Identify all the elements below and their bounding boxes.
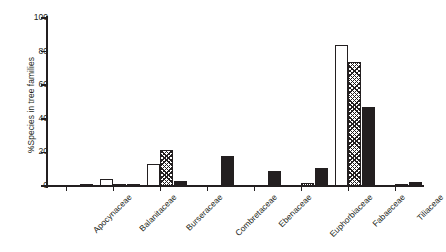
bar-chart-figure: %Species in tree families 020406080100 A… (0, 0, 446, 252)
x-axis-tick (301, 186, 303, 191)
x-axis-category-label: Burseraceae (183, 192, 224, 233)
x-axis-category-label: Combretaceae (233, 192, 279, 238)
x-axis-tick (207, 186, 209, 191)
x-axis-category-label: Fabaeceae (370, 192, 407, 229)
x-axis-tick (160, 186, 162, 191)
x-axis-category-label: Apocynaceae (90, 192, 133, 235)
x-axis-category-label: Euphorbiaceae (327, 192, 374, 239)
x-axis-labels: ApocynaceaeBalanitaceaeBurseraceaeCombre… (0, 0, 446, 252)
x-axis-tick (113, 186, 115, 191)
x-axis-tick (348, 186, 350, 191)
x-axis-category-label: Ebenaceae (276, 192, 313, 229)
x-axis-tick (254, 186, 256, 191)
x-axis-category-label: Balanitaceae (137, 192, 178, 233)
x-axis-category-label: Tiliaceae (414, 192, 445, 223)
x-axis-tick (66, 186, 68, 191)
x-axis-tick (395, 186, 397, 191)
